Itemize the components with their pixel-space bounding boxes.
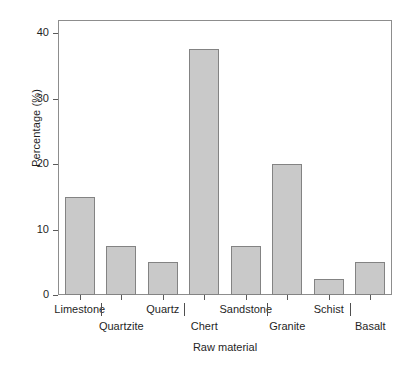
bar-quartz bbox=[148, 262, 178, 295]
y-axis-title: Percentage (%) bbox=[30, 48, 42, 208]
bars-layer bbox=[59, 21, 391, 295]
x-tick-label-schist: Schist bbox=[289, 304, 369, 315]
y-tick-label: 0 bbox=[23, 289, 49, 300]
x-label-divider bbox=[101, 303, 102, 316]
x-tick-mark bbox=[80, 295, 81, 300]
bar-schist bbox=[314, 279, 344, 295]
y-tick-label: 10 bbox=[23, 224, 49, 235]
x-tick-mark bbox=[204, 295, 205, 300]
y-tick-mark bbox=[53, 295, 58, 296]
x-label-divider bbox=[184, 303, 185, 316]
x-axis-title: Raw material bbox=[58, 341, 392, 353]
y-tick-label: 40 bbox=[23, 27, 49, 38]
x-label-divider bbox=[267, 303, 268, 316]
x-tick-label-quartzite: Quartzite bbox=[81, 321, 161, 332]
x-tick-mark bbox=[163, 295, 164, 300]
bar-chart-figure: Percentage (%) 010203040 LimestoneQuartz… bbox=[0, 0, 412, 367]
bar-basalt bbox=[355, 262, 385, 295]
x-tick-mark bbox=[246, 295, 247, 300]
x-tick-mark bbox=[121, 295, 122, 300]
x-tick-mark bbox=[287, 295, 288, 300]
x-tick-label-basalt: Basalt bbox=[330, 321, 410, 332]
bar-limestone bbox=[65, 197, 95, 295]
y-tick-label: 30 bbox=[23, 93, 49, 104]
x-tick-label-granite: Granite bbox=[247, 321, 327, 332]
x-tick-mark bbox=[370, 295, 371, 300]
x-tick-label-sandstone: Sandstone bbox=[206, 304, 286, 315]
x-tick-mark bbox=[329, 295, 330, 300]
bar-chert bbox=[189, 49, 219, 295]
x-tick-label-quartz: Quartz bbox=[123, 304, 203, 315]
x-tick-label-chert: Chert bbox=[164, 321, 244, 332]
x-label-divider bbox=[350, 303, 351, 316]
bar-quartzite bbox=[106, 246, 136, 295]
x-tick-label-limestone: Limestone bbox=[40, 304, 120, 315]
bar-sandstone bbox=[231, 246, 261, 295]
bar-granite bbox=[272, 164, 302, 295]
y-tick-label: 20 bbox=[23, 158, 49, 169]
